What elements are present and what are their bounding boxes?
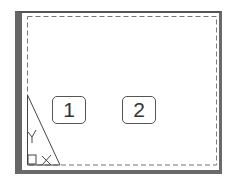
viewport-1[interactable]: 1: [52, 96, 86, 124]
ucs-y-axis-icon: [28, 130, 36, 143]
layout-overlay: [0, 0, 235, 185]
viewport-2[interactable]: 2: [122, 96, 156, 124]
printable-area-border: [28, 17, 217, 166]
ucs-x-axis-icon: [42, 155, 51, 165]
viewport-1-label: 1: [63, 98, 75, 122]
viewport-2-label: 2: [133, 98, 145, 122]
